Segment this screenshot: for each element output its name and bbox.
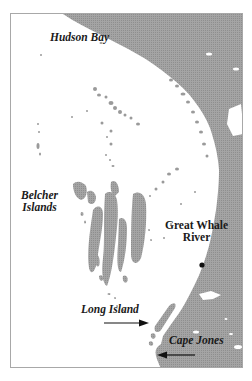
arrow-to-long-island <box>104 320 149 327</box>
map-frame: Hudson Bay Belcher Islands Great Whale R… <box>10 13 243 368</box>
label-belcher-islands: Belcher Islands <box>21 189 58 213</box>
label-hudson-bay: Hudson Bay <box>50 32 109 44</box>
belcher-islands <box>73 181 152 311</box>
label-great-whale-river: Great Whale River <box>165 219 228 243</box>
settlement-dot-great-whale-river <box>199 262 204 267</box>
label-cape-jones: Cape Jones <box>169 335 224 347</box>
label-long-island: Long Island <box>81 304 139 316</box>
